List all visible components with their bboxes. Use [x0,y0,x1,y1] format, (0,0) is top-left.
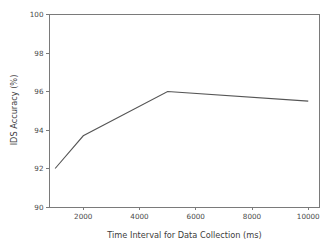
line-chart-canvas: 9092949698100 200040006000800010000 Time… [0,0,336,244]
y-tick-label: 100 [30,10,44,19]
x-tick-label: 8000 [243,212,262,221]
x-tick-label: 6000 [187,212,206,221]
y-tick-label: 92 [34,164,43,173]
y-tick-label: 96 [34,87,44,96]
chart-figure: 9092949698100 200040006000800010000 Time… [0,0,336,244]
x-tick-label: 2000 [74,212,93,221]
x-axis-label: Time Interval for Data Collection (ms) [106,230,261,240]
y-tick-label: 94 [34,126,44,135]
y-tick-label: 98 [34,49,44,58]
x-tick-label: 10000 [297,212,320,221]
x-tick-label: 4000 [130,212,149,221]
y-tick-label: 90 [34,203,44,212]
y-axis-label: IDS Accuracy (%) [9,75,19,146]
